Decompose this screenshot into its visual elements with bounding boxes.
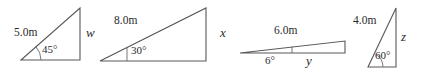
triangle-2-angle-label: 30°	[131, 45, 146, 56]
triangle-1-unknown-side-label: w	[86, 26, 95, 39]
triangle-2-hypotenuse-label: 8.0m	[114, 15, 137, 27]
triangle-3-hypotenuse-label: 6.0m	[274, 25, 297, 37]
triangle-1-hypotenuse-label: 5.0m	[14, 27, 37, 39]
triangle-3-outline	[240, 41, 345, 53]
triangle-1-angle-arc	[36, 47, 41, 60]
geometry-figure: 5.0m 45° w 8.0m 30° x 6.0m 6° y 4.0m 60°…	[0, 0, 426, 73]
triangle-3-unknown-side-label: y	[306, 54, 312, 67]
triangle-3-angle-label: 6°	[265, 55, 275, 66]
triangle-3-shape	[240, 41, 345, 53]
triangle-2-unknown-side-label: x	[220, 26, 226, 39]
triangle-4-hypotenuse-label: 4.0m	[353, 15, 376, 27]
triangle-4-angle-label: 60°	[375, 50, 390, 61]
triangles-drawing	[0, 0, 426, 73]
triangle-4-unknown-side-label: z	[401, 30, 406, 43]
triangle-1-angle-label: 45°	[42, 44, 57, 55]
